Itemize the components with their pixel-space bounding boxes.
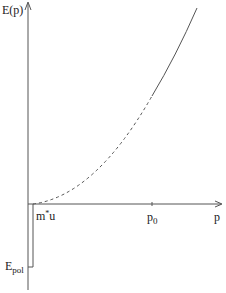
origin-label-u: u: [49, 209, 55, 223]
epol-label: Epol: [5, 260, 24, 272]
x-axis-label: p: [214, 211, 220, 223]
solid-curve: [152, 8, 197, 96]
y-axis-label: E(p): [2, 4, 23, 16]
origin-label-m: m: [36, 209, 45, 223]
dashed-curve: [33, 96, 152, 204]
p0-label-sub: 0: [153, 216, 158, 226]
epol-step: [28, 204, 33, 267]
epol-label-sub: pol: [12, 265, 24, 275]
p0-label: p0: [147, 211, 158, 223]
origin-label: m*u: [36, 210, 55, 222]
origin-label-star: *: [45, 209, 49, 218]
energy-diagram: [0, 0, 226, 293]
